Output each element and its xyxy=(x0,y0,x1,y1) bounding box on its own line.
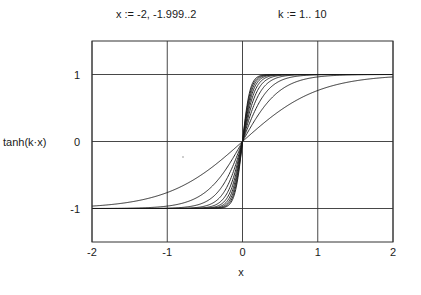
x-tick-label: -1 xyxy=(162,246,172,258)
y-axis-ticks: -101 xyxy=(70,69,80,215)
x-axis-label: x xyxy=(238,266,244,278)
speck xyxy=(182,156,183,157)
y-tick-label: -1 xyxy=(70,203,80,215)
x-tick-label: 2 xyxy=(390,246,396,258)
tanh-plot: -2-1012 -101 x tanh(k·x) xyxy=(0,0,421,295)
y-tick-label: 1 xyxy=(74,69,80,81)
x-axis-ticks: -2-1012 xyxy=(87,246,396,258)
x-tick-label: 0 xyxy=(239,246,245,258)
y-tick-label: 0 xyxy=(74,136,80,148)
y-axis-label: tanh(k·x) xyxy=(3,136,46,148)
x-tick-label: -2 xyxy=(87,246,97,258)
x-tick-label: 1 xyxy=(315,246,321,258)
